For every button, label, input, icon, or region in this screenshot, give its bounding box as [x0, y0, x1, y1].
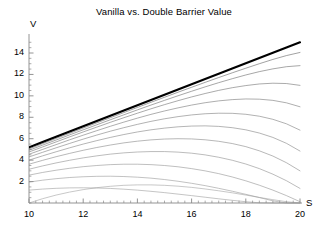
y-tick-label: 2: [4, 176, 24, 186]
x-tick-label: 12: [76, 209, 90, 219]
y-tick-label: 12: [4, 68, 24, 78]
y-tick-label: 4: [4, 154, 24, 164]
x-axis-label: S: [306, 197, 312, 208]
y-axis-label: V: [30, 18, 36, 29]
x-tick-label: 16: [185, 209, 199, 219]
x-tick-label: 14: [130, 209, 144, 219]
y-tick-label: 14: [4, 47, 24, 57]
y-tick-label: 8: [4, 111, 24, 121]
y-tick-label: 10: [4, 90, 24, 100]
x-tick-label: 20: [293, 209, 307, 219]
plot-area: [0, 0, 328, 243]
chart-figure: Vanilla vs. Double Barrier Value V S 101…: [0, 0, 328, 243]
x-tick-label: 18: [239, 209, 253, 219]
x-tick-label: 10: [22, 209, 36, 219]
y-tick-label: 6: [4, 133, 24, 143]
